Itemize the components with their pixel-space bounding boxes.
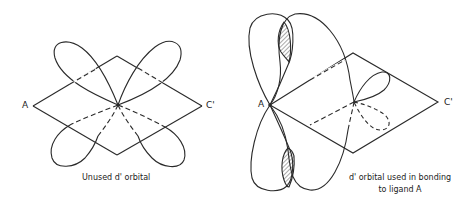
orbital-lobe-lower-left-hidden — [70, 105, 118, 125]
vertex-label-a-left: A — [22, 100, 28, 111]
orbital-lobe-lower-right — [138, 127, 185, 167]
vertex-label-c-prime-right: C' — [444, 97, 453, 108]
right-figure-bonding-orbital — [249, 14, 438, 191]
plane-edge — [117, 106, 202, 155]
orbital-lobe-lower-b-hidden — [348, 102, 354, 130]
plane-edge — [33, 106, 117, 155]
vertex-label-a-right: A — [258, 99, 264, 110]
orbital-lobe-lower-left — [51, 125, 98, 166]
orbital-lobe-lower-left-hidden — [98, 105, 118, 136]
caption-right-line1: d' orbital used in bonding — [340, 172, 460, 183]
orbital-lobe-lower-b — [270, 105, 348, 190]
overlap-region-upper — [278, 22, 290, 62]
vertex-label-c-prime-left: C' — [206, 100, 215, 111]
orbital-small-lobe-lower — [354, 102, 389, 130]
left-figure-unused-orbital — [33, 41, 202, 166]
vertex-dot-a — [268, 103, 272, 107]
caption-left: Unused d' orbital — [82, 172, 150, 183]
orbital-lobe-upper-right — [118, 41, 181, 105]
right-hidden-plane-lines — [310, 60, 354, 125]
left-hidden-plane-lines — [70, 68, 163, 84]
caption-right-line2: to ligand A — [340, 184, 460, 195]
orbital-lobe-lower-right-hidden — [118, 105, 165, 127]
orbital-small-lobe-upper — [354, 72, 390, 102]
